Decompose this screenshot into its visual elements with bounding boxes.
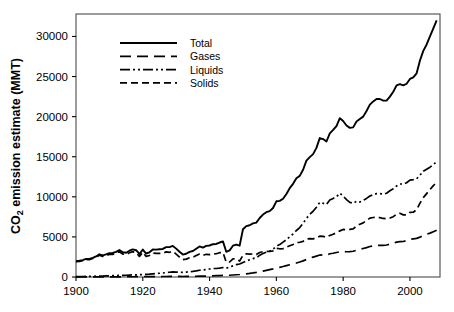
legend-label-total: Total	[190, 37, 212, 49]
y-axis-ticks: 050001000015000200002500030000	[36, 30, 76, 283]
y-axis-title-suffix: emission estimate (MMT)	[9, 58, 23, 210]
x-axis-ticks: 190019201940196019802000	[63, 277, 423, 297]
data-series-group	[76, 20, 437, 277]
chart-legend: TotalGasesLiquidsSolids	[120, 37, 223, 89]
y-tick-label: 30000	[36, 30, 68, 42]
legend-label-gases: Gases	[190, 50, 220, 62]
y-tick-label: 15000	[36, 151, 68, 163]
legend-label-solids: Solids	[190, 77, 219, 89]
y-tick-label: 10000	[36, 191, 68, 203]
y-tick-label: 5000	[42, 231, 68, 243]
x-tick-label: 1920	[130, 285, 156, 297]
x-tick-label: 1980	[330, 285, 356, 297]
co2-emission-line-chart: CO2 emission estimate (MMT) 050001000015…	[0, 0, 454, 312]
y-tick-label: 25000	[36, 71, 68, 83]
x-tick-label: 1940	[197, 285, 223, 297]
y-axis-title: CO2 emission estimate (MMT)	[9, 58, 25, 234]
y-tick-label: 0	[62, 271, 68, 283]
chart-figure: CO2 emission estimate (MMT) 050001000015…	[0, 0, 454, 312]
y-axis-title-prefix: CO	[9, 215, 23, 234]
y-tick-label: 20000	[36, 111, 68, 123]
legend-label-liquids: Liquids	[190, 64, 223, 76]
x-tick-label: 1960	[264, 285, 290, 297]
x-tick-label: 1900	[63, 285, 89, 297]
plot-frame	[76, 14, 440, 277]
x-tick-label: 2000	[397, 285, 423, 297]
